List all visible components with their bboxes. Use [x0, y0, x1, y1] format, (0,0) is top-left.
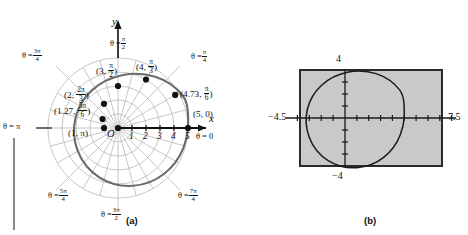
- dot-4-pi-3: [143, 76, 149, 82]
- x-tick-2: 2: [143, 132, 148, 142]
- dot-2-2pi-3: [101, 101, 107, 107]
- frac-den: 2: [121, 44, 126, 51]
- pt-close: ): [85, 128, 88, 138]
- pt-close: ): [87, 106, 90, 116]
- origin-label: O: [107, 129, 115, 140]
- x-tick-4: 4: [171, 132, 176, 142]
- x-tick-5: 5: [185, 132, 190, 142]
- pt-r: 5, 0: [196, 109, 210, 119]
- pt-r: 1.27,: [57, 106, 78, 116]
- theta-eq-text: θ =: [48, 191, 59, 200]
- frac-den: 4: [189, 196, 198, 203]
- panel-a-polar-graph: y x O 1 2 3 4 5 θ =π2 θ =π4 θ =3π4 θ = π…: [0, 0, 280, 235]
- angle-value: π: [16, 122, 20, 131]
- pt-r: 4.73,: [183, 89, 204, 99]
- dot-3-pi-2: [115, 83, 121, 89]
- theta-eq-text: θ =: [196, 132, 207, 141]
- frac-den: 2: [112, 215, 121, 222]
- point-label-1-pi: (1, π): [68, 129, 88, 138]
- window-ymax-label: 4: [336, 53, 341, 64]
- pt-r: 4,: [139, 62, 148, 72]
- dot-127-5pi-6: [100, 116, 106, 122]
- frac-den: 4: [33, 56, 42, 63]
- figure-root: y x O 1 2 3 4 5 θ =π2 θ =π4 θ =3π4 θ = π…: [0, 0, 468, 235]
- limacon-curve: [74, 74, 188, 186]
- caption-b: (b): [364, 215, 376, 226]
- angle-value: 0: [209, 132, 213, 141]
- y-axis-label: y: [112, 16, 117, 27]
- dot-473-pi-6: [172, 92, 178, 98]
- window-xmax-label: 7.5: [448, 111, 461, 122]
- x-axis-arrowhead: [198, 124, 206, 131]
- pt-close: ): [209, 89, 212, 99]
- angle-label-pi-2: θ =π2: [110, 36, 126, 51]
- pt-close: ): [210, 109, 213, 119]
- theta-eq-text: θ =: [191, 52, 202, 61]
- point-label-3-pi-2: (3, π2): [96, 62, 117, 78]
- pt-r: 1, π: [71, 128, 85, 138]
- frac-den: 4: [59, 196, 68, 203]
- angle-label-7pi-4: θ =7π4: [178, 188, 198, 203]
- dot-origin: [115, 125, 121, 131]
- theta-eq-text: θ =: [22, 51, 33, 60]
- angle-label-5pi-4: θ =5π4: [48, 188, 68, 203]
- window-xmin-label: −4.5: [268, 111, 286, 122]
- frac-den: 4: [202, 57, 207, 64]
- point-label-5-0: (5, 0): [193, 110, 213, 119]
- point-label-127-5pi-6: (1.27, 5π6): [54, 102, 90, 118]
- theta-eq-text: θ =: [110, 39, 121, 48]
- caption-a: (a): [126, 215, 138, 226]
- panel-b-calculator-view: 4 −4 −4.5 7.5 (b): [286, 0, 468, 235]
- angle-label-pi: θ = π: [3, 123, 20, 131]
- pt-close: ): [86, 90, 89, 100]
- angle-label-pi-4: θ =π4: [191, 49, 207, 64]
- pt-close: ): [114, 66, 117, 76]
- point-label-473-pi-6: (4.73, π6): [180, 85, 213, 101]
- x-tick-1: 1: [129, 132, 134, 142]
- angle-label-0: θ = 0: [196, 133, 213, 141]
- point-label-4-pi-3: (4, π3): [136, 58, 157, 74]
- window-ymin-label: −4: [332, 170, 343, 181]
- theta-eq-text: θ =: [101, 210, 112, 219]
- angle-label-3pi-2: θ =3π2: [101, 207, 121, 222]
- polar-plot-svg: [0, 0, 280, 235]
- frac-den: 6: [78, 111, 87, 119]
- point-label-2-2pi-3: (2, 2π3): [64, 86, 89, 102]
- theta-eq-text: θ =: [178, 191, 189, 200]
- pt-close: ): [154, 62, 157, 72]
- calculator-screen-svg: [286, 0, 468, 235]
- angle-label-3pi-4: θ =3π4: [22, 48, 42, 63]
- pt-r: 3,: [99, 66, 108, 76]
- theta-eq-text: θ =: [3, 122, 14, 131]
- pt-r: 2,: [67, 90, 76, 100]
- x-tick-3: 3: [157, 132, 162, 142]
